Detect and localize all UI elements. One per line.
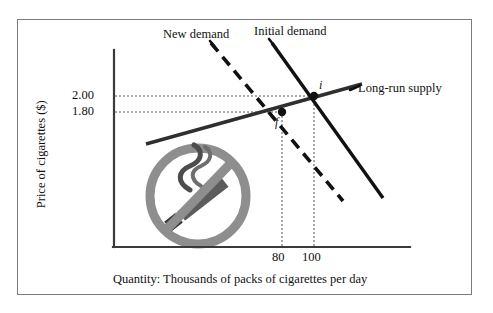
long-run-supply-curve [146, 84, 362, 144]
equilibrium-point-i [310, 92, 318, 100]
no-smoking-icon [150, 145, 246, 244]
initial-demand-label: Initial demand [254, 25, 327, 38]
chart-canvas [0, 0, 493, 313]
guide-lines [115, 96, 314, 247]
new-demand-label: New demand [163, 28, 229, 41]
x-tick-label-80: 80 [272, 251, 285, 264]
equilibrium-point-f [278, 108, 286, 116]
point-label-f: f [275, 116, 278, 128]
y-tick-label-180: 1.80 [72, 105, 94, 118]
x-tick-label-100: 100 [302, 251, 321, 264]
long-run-supply-label: Long-run supply [358, 82, 442, 95]
y-axis-title: Price of cigarettes ($) [35, 69, 48, 239]
point-label-i: i [319, 79, 322, 91]
y-tick-label-200: 2.00 [72, 89, 94, 102]
leader-initial-demand [269, 39, 276, 48]
figure-page: Price of cigarettes ($) Quantity: Thousa… [0, 0, 493, 313]
x-axis-title: Quantity: Thousands of packs of cigarett… [113, 273, 367, 286]
label-leader-lines [210, 39, 359, 90]
initial-demand-curve [272, 43, 383, 198]
